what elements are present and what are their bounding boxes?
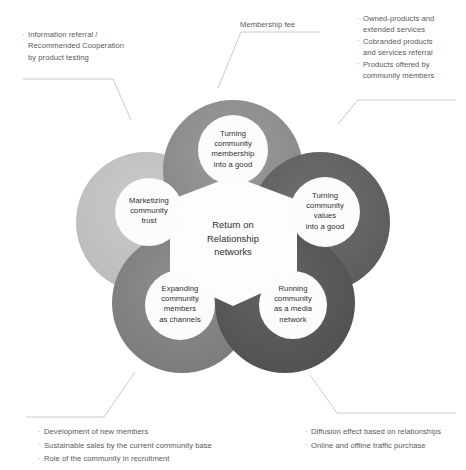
leader-line-bottom-right <box>310 375 456 413</box>
petal-label-members-channels: Expanding community members as channels <box>120 284 240 325</box>
annotation-line: Cobranded products <box>357 36 434 47</box>
annotation-line: and services referral <box>357 47 434 58</box>
annotation-line: Owned-products and <box>357 13 434 24</box>
annotation-line: Products offered by <box>357 59 434 70</box>
annotation-line: Membership fee <box>240 19 295 30</box>
annotation-line: Diffusion effect based on relationships <box>305 425 441 439</box>
annotation-line: Role of the community in recruitment <box>38 452 212 466</box>
annotation-line: community members <box>357 70 434 81</box>
center-label: Return on Relationship networks <box>173 219 293 260</box>
annotation-bottom-left: Development of new members Sustainable s… <box>38 425 212 466</box>
annotation-line: Sustainable sales by the current communi… <box>38 439 212 453</box>
annotation-line: Recommended Cooperation <box>22 40 124 51</box>
leader-line-top-left <box>23 79 131 120</box>
annotation-line: by product testing <box>22 52 124 63</box>
annotation-line: extended services <box>357 24 434 35</box>
annotation-top-left: Information referral / Recommended Coope… <box>22 29 124 63</box>
annotation-bottom-right: Diffusion effect based on relationships … <box>305 425 441 452</box>
annotation-line: Information referral / <box>22 29 124 40</box>
annotation-top-center: Membership fee <box>240 19 295 30</box>
leader-line-top-center <box>218 32 320 88</box>
annotation-top-right: Owned-products and extended services Cob… <box>357 13 434 81</box>
annotation-line: Development of new members <box>38 425 212 439</box>
petal-label-media-network: Running community as a media network <box>233 284 353 325</box>
petal-label-membership-good: Turning community membership into a good <box>173 129 293 170</box>
annotation-line: Online and offline traffic purchase <box>305 439 441 453</box>
leader-line-top-right <box>338 100 456 124</box>
leader-line-bottom-left <box>26 372 135 417</box>
